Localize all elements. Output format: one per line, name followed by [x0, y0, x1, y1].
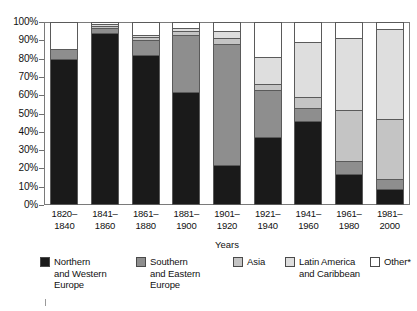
- x-axis-tick-label: 1981–2000: [369, 208, 410, 231]
- bar-segment: [172, 35, 200, 92]
- legend-label: Asia: [247, 256, 265, 268]
- bar-segment: [335, 110, 363, 161]
- bar-segment: [254, 22, 282, 57]
- x-axis-tick-label: 1861–1880: [125, 208, 166, 231]
- bar-stack: [132, 22, 160, 205]
- bar-segment: [172, 92, 200, 205]
- bar-column: [50, 22, 78, 205]
- bar-column: [172, 22, 200, 205]
- bar-segment: [376, 189, 404, 205]
- y-axis: 100%90%80%70%60%50%40%30%20%10%0%: [0, 22, 38, 205]
- bar-segment: [50, 59, 78, 205]
- legend-item-latin-america-caribbean[interactable]: Latin Americaand Caribbean: [285, 256, 360, 279]
- bar-segment: [172, 31, 200, 35]
- bar-column: [132, 22, 160, 205]
- x-axis-title: Years: [44, 239, 410, 250]
- bar-segment: [50, 22, 78, 49]
- legend-item-northern-western-europe[interactable]: Northernand WesternEurope: [40, 256, 107, 291]
- bar-segment: [50, 49, 78, 58]
- y-axis-tick-label: 10%: [0, 182, 38, 192]
- bar-segment: [376, 22, 404, 29]
- x-axis-tick-label: 1901–1920: [207, 208, 248, 231]
- plot-area: [44, 22, 410, 205]
- bar-segment: [91, 28, 119, 33]
- bar-column: [213, 22, 241, 205]
- legend-swatch-icon: [285, 257, 295, 267]
- x-axis-tick-label: 1961–1980: [329, 208, 370, 231]
- legend-label: Northernand WesternEurope: [54, 256, 107, 291]
- legend-label: Southernand EasternEurope: [150, 256, 200, 291]
- bar-segment: [294, 108, 322, 121]
- bar-segment: [254, 57, 282, 84]
- y-axis-tick-label: 20%: [0, 163, 38, 173]
- bar-segment: [91, 24, 119, 26]
- bar-segment: [91, 26, 119, 28]
- y-axis-tick-label: 50%: [0, 109, 38, 119]
- y-axis-tick-label: 40%: [0, 127, 38, 137]
- legend-item-other[interactable]: Other*: [370, 256, 411, 268]
- bar-segment: [294, 42, 322, 97]
- legend-swatch-icon: [136, 257, 146, 267]
- legend-item-southern-eastern-europe[interactable]: Southernand EasternEurope: [136, 256, 200, 291]
- bar-segment: [335, 22, 363, 38]
- bar-segment: [91, 33, 119, 205]
- bar-stack: [91, 22, 119, 205]
- x-axis-tick-label: 1841–1860: [85, 208, 126, 231]
- legend-swatch-icon: [233, 257, 243, 267]
- bar-segment: [294, 121, 322, 205]
- bar-column: [91, 22, 119, 205]
- x-axis-tick-label: 1941–1960: [288, 208, 329, 231]
- bar-segment: [91, 22, 119, 24]
- bar-segment: [213, 38, 241, 43]
- bar-segment: [254, 137, 282, 205]
- bar-segment: [294, 97, 322, 108]
- bar-column: [254, 22, 282, 205]
- y-axis-tick-label: 80%: [0, 54, 38, 64]
- legend-label: Other*: [384, 256, 411, 268]
- bar-segment: [172, 28, 200, 32]
- bar-segment: [213, 165, 241, 205]
- bar-segment: [376, 29, 404, 119]
- legend-swatch-icon: [40, 257, 50, 267]
- y-axis-tick-label: 60%: [0, 90, 38, 100]
- bar-segment: [254, 90, 282, 138]
- footer-tick-mark: [45, 299, 46, 306]
- bar-segment: [335, 174, 363, 205]
- bar-column: [294, 22, 322, 205]
- bar-stack: [213, 22, 241, 205]
- bar-column: [335, 22, 363, 205]
- chart-legend: Northernand WesternEuropeSouthernand Eas…: [40, 256, 412, 308]
- bar-segment: [213, 31, 241, 38]
- bar-segment: [376, 179, 404, 188]
- bar-segment: [132, 37, 160, 41]
- legend-item-asia[interactable]: Asia: [233, 256, 265, 268]
- bar-segment: [376, 119, 404, 179]
- bar-stack: [335, 22, 363, 205]
- y-axis-tick-label: 0%: [0, 200, 38, 210]
- bar-segment: [172, 22, 200, 27]
- x-axis-tick-labels: 1820–18401841–18601861–18801881–19001901…: [44, 208, 410, 236]
- bar-segment: [213, 22, 241, 31]
- bar-stack: [294, 22, 322, 205]
- stacked-bar-chart: 100%90%80%70%60%50%40%30%20%10%0% 1820–1…: [0, 0, 417, 311]
- bar-segment: [132, 55, 160, 205]
- y-axis-tick-label: 30%: [0, 145, 38, 155]
- bar-segment: [335, 161, 363, 174]
- bar-segment: [254, 84, 282, 89]
- y-axis-tick-label: 90%: [0, 35, 38, 45]
- y-axis-tick-label: 70%: [0, 72, 38, 82]
- bar-stack: [376, 22, 404, 205]
- bar-stack: [172, 22, 200, 205]
- y-axis-tick-label: 100%: [0, 17, 38, 27]
- legend-swatch-icon: [370, 257, 380, 267]
- x-axis-tick-label: 1881–1900: [166, 208, 207, 231]
- legend-label: Latin Americaand Caribbean: [299, 256, 360, 279]
- bar-stack: [254, 22, 282, 205]
- x-axis-tick-label: 1921–1940: [247, 208, 288, 231]
- bar-segment: [335, 38, 363, 109]
- bar-segment: [294, 22, 322, 42]
- bar-segment: [132, 35, 160, 37]
- bar-stack: [50, 22, 78, 205]
- bar-segment: [213, 44, 241, 165]
- bar-column: [376, 22, 404, 205]
